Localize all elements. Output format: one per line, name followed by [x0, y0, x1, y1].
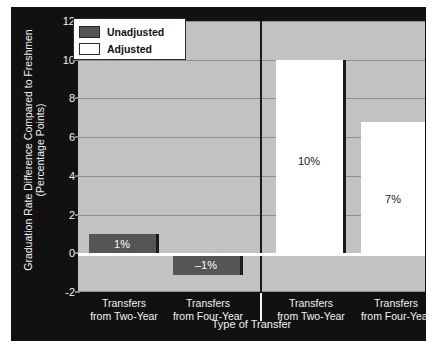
y-tick-label-8: 8 — [53, 92, 75, 104]
y-tick-label-6: 6 — [53, 131, 75, 143]
bar-label-unadjusted-four-year: –1% — [195, 259, 217, 271]
y-axis-title-line1: Graduation Rate Difference Compared to F… — [22, 29, 34, 270]
legend-label-unadjusted: Unadjusted — [107, 26, 164, 38]
x-axis-title: Type of Transfer — [78, 318, 425, 330]
y-tick-label-neg2: -2 — [53, 286, 75, 298]
legend-label-adjusted: Adjusted — [107, 43, 152, 55]
bar-label-adjusted-two-year: 10% — [298, 155, 320, 167]
legend-item-unadjusted[interactable]: Unadjusted — [79, 24, 180, 40]
x-axis-group-divider — [260, 293, 262, 321]
x-category-label-1-line1: Transfers — [102, 297, 146, 309]
y-tick-label-12: 12 — [53, 15, 75, 27]
legend-swatch-adjusted-icon — [79, 43, 100, 55]
bar-label-adjusted-four-year: 7% — [385, 193, 401, 205]
y-axis-ticks: 12 10 8 6 4 2 0 -2 — [51, 7, 75, 341]
x-category-label-2-line1: Transfers — [186, 297, 230, 309]
group-divider — [260, 21, 262, 292]
plot-area: 1% –1% 10% 7% — [78, 21, 425, 292]
gridline-neg2 — [78, 291, 425, 292]
x-category-label-3-line1: Transfers — [289, 297, 333, 309]
y-axis-title-line2: (Percentage Points) — [34, 29, 46, 270]
bar-label-unadjusted-two-year: 1% — [114, 238, 130, 250]
y-tick-label-2: 2 — [53, 209, 75, 221]
y-tick-label-4: 4 — [53, 170, 75, 182]
x-category-label-4-line1: Transfers — [374, 297, 418, 309]
y-tick-label-0: 0 — [53, 247, 75, 259]
bar-adjusted-four-year[interactable] — [361, 122, 425, 254]
chart-legend: Unadjusted Adjusted — [73, 18, 186, 60]
legend-item-adjusted[interactable]: Adjusted — [79, 41, 180, 57]
gridline-8 — [78, 98, 425, 99]
chart-figure: Graduation Rate Difference Compared to F… — [11, 7, 426, 341]
y-tick-label-10: 10 — [53, 54, 75, 66]
legend-swatch-unadjusted-icon — [79, 26, 100, 38]
